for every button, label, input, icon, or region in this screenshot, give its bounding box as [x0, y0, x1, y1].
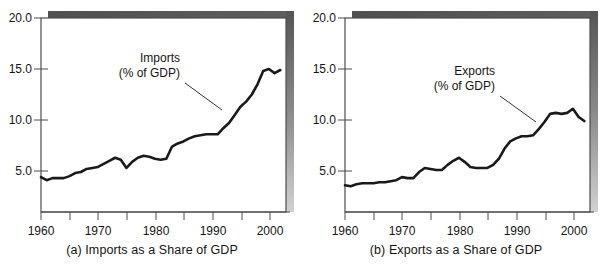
x-tick-label-1970: 1970	[389, 224, 416, 238]
y-tick-label-20: 20.0	[9, 11, 33, 25]
y-tick-label-20: 20.0	[313, 11, 337, 25]
annotation-label-line1: Exports	[454, 64, 495, 78]
x-tick-label-1990: 1990	[200, 224, 227, 238]
annotation-label-line2: (% of GDP)	[119, 66, 180, 80]
x-tick-label-1990: 1990	[504, 224, 531, 238]
chart-panel-exports: 20.0 15.0 10.0 5.0 1960 1970 1980 1990 2…	[304, 0, 608, 271]
plot-frame	[41, 18, 286, 212]
chart-panel-imports: 20.0 15.0 10.0 5.0 1960 1970 1980	[0, 0, 304, 271]
annotation-label-line2: (% of GDP)	[434, 79, 495, 93]
x-tick-label-2000: 2000	[257, 224, 284, 238]
x-tick-label-1970: 1970	[85, 224, 112, 238]
figure-container: 20.0 15.0 10.0 5.0 1960 1970 1980	[0, 0, 608, 271]
y-tick-label-5: 5.0	[319, 164, 336, 178]
imports-plot: 20.0 15.0 10.0 5.0 1960 1970 1980	[0, 0, 304, 271]
panel-caption-a: (a) Imports as a Share of GDP	[0, 243, 304, 257]
y-axis-ticks	[34, 18, 41, 171]
x-tick-label-1980: 1980	[447, 224, 474, 238]
y-tick-label-10: 10.0	[313, 113, 337, 127]
x-tick-label-2000: 2000	[561, 224, 588, 238]
exports-plot: 20.0 15.0 10.0 5.0 1960 1970 1980 1990 2…	[304, 0, 608, 271]
y-tick-label-15: 15.0	[313, 62, 337, 76]
y-tick-label-15: 15.0	[9, 62, 33, 76]
x-axis-ticks	[41, 212, 270, 220]
plot-shadow-right	[286, 11, 294, 212]
y-tick-label-10: 10.0	[9, 113, 33, 127]
panel-caption-b: (b) Exports as a Share of GDP	[304, 243, 608, 257]
x-tick-label-1960: 1960	[28, 224, 55, 238]
annotation-label-line1: Imports	[140, 51, 180, 65]
x-tick-label-1980: 1980	[143, 224, 170, 238]
y-tick-label-5: 5.0	[15, 164, 32, 178]
x-tick-label-1960: 1960	[332, 224, 359, 238]
plot-shadow-right	[590, 11, 598, 212]
y-axis-ticks	[338, 18, 345, 171]
x-axis-ticks	[345, 212, 574, 220]
